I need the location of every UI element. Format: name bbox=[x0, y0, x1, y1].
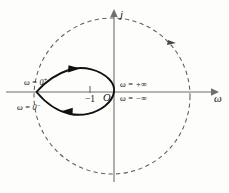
nyquist-plot-canvas: j ω O −1 ω = 0+ ω = 0− ω = +∞ ω = −∞ bbox=[0, 0, 229, 193]
real-axis-label: ω bbox=[214, 92, 222, 104]
omega-plus-infinity-label: ω = +∞ bbox=[120, 80, 147, 89]
critical-point-label: −1 bbox=[85, 94, 95, 104]
omega-zero-minus-base: ω = 0 bbox=[17, 103, 37, 112]
omega-minus-infinity-label: ω = −∞ bbox=[120, 94, 147, 103]
omega-zero-plus-sup: + bbox=[44, 77, 48, 83]
omega-zero-minus-sup: − bbox=[37, 102, 41, 108]
nyquist-figure: j ω O −1 ω = 0+ ω = 0− ω = +∞ ω = −∞ bbox=[0, 0, 229, 193]
imaginary-axis-arrow-icon bbox=[110, 9, 117, 17]
omega-zero-minus-label: ω = 0− bbox=[17, 102, 41, 112]
upper-branch-arrow-icon bbox=[68, 65, 81, 72]
origin-label: O bbox=[103, 92, 111, 103]
omega-zero-plus-base: ω = 0 bbox=[24, 78, 44, 87]
dashed-circle-arrow-icon bbox=[167, 40, 176, 45]
